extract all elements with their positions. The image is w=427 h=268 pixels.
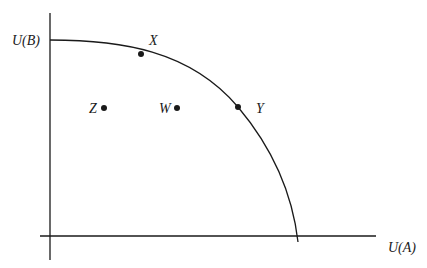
point-y-label: Y — [256, 101, 266, 116]
y-axis-label: U(B) — [12, 33, 40, 49]
point-z-marker — [101, 105, 107, 111]
utility-frontier-curve — [50, 40, 298, 242]
point-x-marker — [138, 51, 144, 57]
point-y-marker — [235, 104, 241, 110]
point-w-marker — [174, 105, 180, 111]
point-w-label: W — [159, 101, 172, 116]
point-z-label: Z — [89, 101, 97, 116]
point-x-label: X — [148, 33, 158, 48]
x-axis-label: U(A) — [388, 240, 416, 256]
utility-frontier-diagram: U(B) U(A) X Y W Z — [0, 0, 427, 268]
